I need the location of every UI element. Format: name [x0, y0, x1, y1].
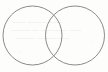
right-circle-outline: [46, 6, 105, 65]
venn-diagram-figure: [0, 0, 108, 72]
left-circle-outline: [3, 6, 62, 65]
scanned-figure-canvas: —— ——— —— ——— — ———— —— ——— —————: [0, 0, 108, 72]
